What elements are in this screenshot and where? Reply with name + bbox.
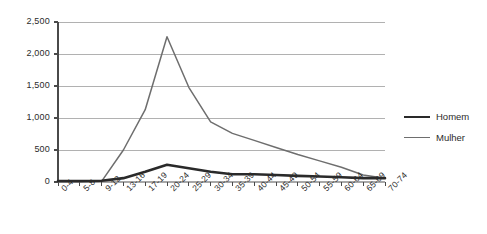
gridlines [58, 22, 385, 182]
legend-label-mulher: Mulher [436, 133, 465, 143]
series-line-mulher [58, 37, 385, 182]
legend-item-mulher: Mulher [404, 127, 487, 148]
legend-item-homem: Homem [404, 106, 487, 127]
legend-swatch-homem [404, 116, 430, 118]
axis-lines [54, 22, 58, 182]
series-lines [58, 37, 385, 182]
legend: Homem Mulher [404, 106, 487, 148]
chart-figure: 05001,0001,5002,0002,500 0-45-89-1213-16… [0, 0, 487, 234]
legend-swatch-mulher [404, 137, 430, 138]
x-axis: 0-45-89-1213-1617-1920-2425-2930-3435-39… [58, 186, 398, 234]
legend-label-homem: Homem [436, 112, 469, 122]
